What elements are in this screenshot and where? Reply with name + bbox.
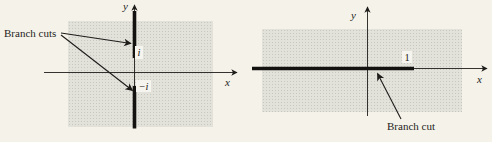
caption-arrow-upper xyxy=(61,33,131,44)
caption-arrow-lower xyxy=(61,35,133,91)
right-figure-drawing xyxy=(246,0,492,142)
point-label-1: 1 xyxy=(402,51,412,63)
left-y-axis-label: y xyxy=(123,0,128,12)
left-figure-drawing xyxy=(0,0,246,142)
right-x-axis-label: x xyxy=(477,73,482,85)
right-caption: Branch cut xyxy=(387,120,435,132)
left-x-axis-label: x xyxy=(225,76,230,88)
figure-canvas: Branch cuts y x i −i Branch cut y x 1 xyxy=(0,0,492,142)
right-y-axis-label: y xyxy=(351,9,356,21)
caption-arrow xyxy=(378,74,402,120)
point-label-i: i xyxy=(135,46,143,59)
left-caption: Branch cuts xyxy=(4,27,56,39)
right-figure: Branch cut y x 1 xyxy=(246,0,492,142)
left-figure: Branch cuts y x i −i xyxy=(0,0,246,142)
point-label-minus-i: −i xyxy=(136,80,151,92)
